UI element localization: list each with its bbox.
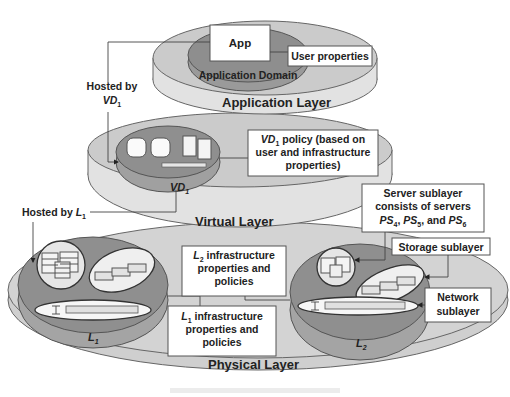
storage-sublayer-callout: Storage sublayer [392,238,490,255]
application-layer-title: Application Layer [222,95,331,110]
svg-text:policies: policies [202,336,241,348]
svg-text:consists of servers: consists of servers [375,200,471,212]
application-domain-label: Application Domain [199,69,298,81]
user-properties-callout: User properties [288,46,372,66]
virtual-layer-title: Virtual Layer [195,214,274,229]
svg-text:Storage sublayer: Storage sublayer [398,241,483,253]
network-switch-icon [311,302,405,310]
l1-infra-callout: L1 infrastructure properties and policie… [168,306,276,356]
virtual-storage-icon [151,138,170,157]
caption-blurred [170,388,340,393]
hosted-by-vd1-label: Hosted by VD1 [87,80,138,108]
svg-text:user and infrastructure: user and infrastructure [256,146,371,158]
virtual-server-icon [183,136,196,156]
virtual-server-icon [198,139,211,159]
svg-text:L2 infrastructure: L2 infrastructure [193,249,275,263]
layered-architecture-diagram: L1 L2 Physical Layer L2 infrastructu [0,0,510,397]
hosted-by-l1-label: Hosted by L1 [22,206,86,220]
svg-text:User properties: User properties [291,50,369,62]
svg-text:Server sublayer: Server sublayer [384,187,463,199]
network-sublayer-callout: Network sublayer [425,288,491,322]
l2-cluster[interactable]: L2 [290,244,430,360]
physical-layer-title: Physical Layer [208,357,299,372]
svg-text:App: App [229,37,251,49]
svg-text:sublayer: sublayer [436,305,479,317]
svg-text:Hosted by: Hosted by [87,80,138,92]
l1-cluster[interactable]: L1 [18,237,168,348]
svg-text:PS4, PS5, and PS6: PS4, PS5, and PS6 [379,214,466,228]
svg-text:L1 infrastructure: L1 infrastructure [181,310,263,324]
vd1-policy-callout: VD1 policy (based on user and infrastruc… [248,130,378,176]
svg-text:Network: Network [437,291,479,303]
svg-text:properties and: properties and [198,262,271,274]
virtual-storage-icon [127,138,146,157]
svg-text:properties and: properties and [186,323,259,335]
svg-text:policies: policies [214,275,253,287]
l2-infra-callout: L2 infrastructure properties and policie… [182,246,286,296]
server-sublayer-callout: Server sublayer consists of servers PS4,… [362,184,484,232]
app-box[interactable]: App [210,25,270,61]
svg-text:properties): properties) [286,159,341,171]
virtual-network-icon [162,163,206,167]
svg-text:VD1: VD1 [103,94,122,108]
